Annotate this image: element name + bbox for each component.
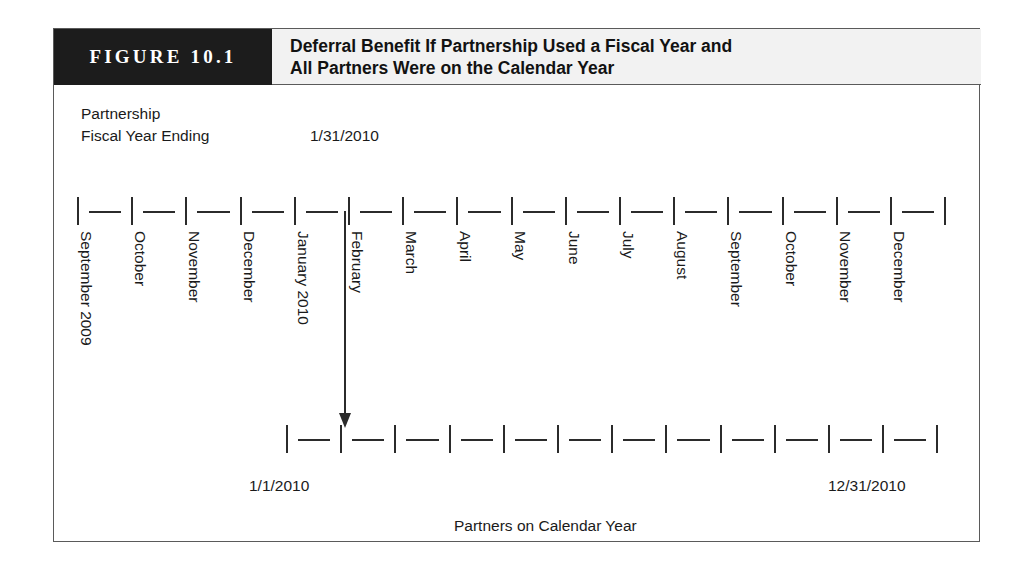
segment-dash bbox=[569, 439, 601, 441]
tick-mark bbox=[774, 425, 776, 453]
segment-dash bbox=[406, 439, 438, 441]
tick-mark bbox=[828, 425, 830, 453]
month-label: September bbox=[727, 231, 745, 307]
segment-dash bbox=[143, 211, 175, 213]
tick-mark bbox=[890, 197, 892, 225]
tick-mark bbox=[240, 197, 242, 225]
caption-fiscal-year-ending: Fiscal Year Ending bbox=[81, 127, 209, 145]
figure-title-box: Deferral Benefit If Partnership Used a F… bbox=[272, 29, 981, 85]
segment-dash bbox=[794, 211, 826, 213]
tick-mark bbox=[782, 197, 784, 225]
segment-dash bbox=[352, 439, 384, 441]
tick-mark bbox=[394, 425, 396, 453]
figure-header: FIGURE 10.1 Deferral Benefit If Partners… bbox=[54, 29, 981, 85]
caption-partners-on-calendar-year: Partners on Calendar Year bbox=[454, 517, 637, 535]
caption-partnership: Partnership bbox=[81, 105, 160, 123]
month-label: December bbox=[240, 231, 258, 303]
month-label: September 2009 bbox=[77, 231, 95, 346]
tick-mark bbox=[185, 197, 187, 225]
label-calendar-end-date: 12/31/2010 bbox=[828, 477, 906, 495]
month-label: July bbox=[619, 231, 637, 259]
segment-dash bbox=[685, 211, 717, 213]
segment-dash bbox=[623, 439, 655, 441]
tick-mark bbox=[402, 197, 404, 225]
tick-mark bbox=[720, 425, 722, 453]
segment-dash bbox=[523, 211, 555, 213]
segment-dash bbox=[515, 439, 547, 441]
tick-mark bbox=[77, 197, 79, 225]
month-label: November bbox=[185, 231, 203, 303]
tick-mark bbox=[294, 197, 296, 225]
segment-dash bbox=[739, 211, 771, 213]
figure-number-box: FIGURE 10.1 bbox=[54, 29, 272, 85]
segment-dash bbox=[902, 211, 934, 213]
segment-dash bbox=[468, 211, 500, 213]
segment-dash bbox=[848, 211, 880, 213]
segment-dash bbox=[298, 439, 330, 441]
month-label: June bbox=[565, 231, 583, 265]
tick-mark bbox=[565, 197, 567, 225]
tick-mark bbox=[131, 197, 133, 225]
tick-mark bbox=[936, 425, 938, 453]
label-fiscal-year-end-date: 1/31/2010 bbox=[310, 127, 379, 145]
segment-dash bbox=[360, 211, 392, 213]
segment-dash bbox=[461, 439, 493, 441]
segment-dash bbox=[786, 439, 818, 441]
timeline-partners-calendar-year bbox=[286, 425, 942, 459]
segment-dash bbox=[677, 439, 709, 441]
tick-mark bbox=[503, 425, 505, 453]
tick-mark bbox=[944, 197, 946, 225]
month-label: November bbox=[836, 231, 854, 303]
month-label: April bbox=[456, 231, 474, 262]
segment-dash bbox=[89, 211, 121, 213]
segment-dash bbox=[197, 211, 229, 213]
month-label: October bbox=[131, 231, 149, 286]
figure-body: Partnership Fiscal Year Ending 1/31/2010… bbox=[54, 85, 981, 541]
tick-mark bbox=[836, 197, 838, 225]
deferral-arrow bbox=[338, 211, 352, 433]
segment-dash bbox=[732, 439, 764, 441]
segment-dash bbox=[414, 211, 446, 213]
segment-dash bbox=[894, 439, 926, 441]
month-label: August bbox=[673, 231, 691, 279]
arrow-shaft bbox=[344, 211, 346, 417]
month-label: December bbox=[890, 231, 908, 303]
month-label: October bbox=[782, 231, 800, 286]
segment-dash bbox=[252, 211, 284, 213]
tick-mark bbox=[727, 197, 729, 225]
segment-dash bbox=[631, 211, 663, 213]
timeline-partnership-fiscal-year: September 2009OctoberNovemberDecemberJan… bbox=[77, 197, 947, 231]
figure-title-line-1: Deferral Benefit If Partnership Used a F… bbox=[290, 35, 981, 57]
tick-mark bbox=[456, 197, 458, 225]
tick-mark bbox=[673, 197, 675, 225]
segment-dash bbox=[306, 211, 338, 213]
tick-mark bbox=[286, 425, 288, 453]
figure-frame: FIGURE 10.1 Deferral Benefit If Partners… bbox=[53, 28, 980, 542]
tick-mark bbox=[611, 425, 613, 453]
tick-mark bbox=[340, 425, 342, 453]
tick-mark bbox=[882, 425, 884, 453]
month-label: May bbox=[511, 231, 529, 260]
tick-mark bbox=[449, 425, 451, 453]
tick-mark bbox=[665, 425, 667, 453]
month-label: January 2010 bbox=[294, 231, 312, 325]
segment-dash bbox=[840, 439, 872, 441]
label-calendar-start-date: 1/1/2010 bbox=[249, 477, 309, 495]
tick-mark bbox=[511, 197, 513, 225]
figure-title-line-2: All Partners Were on the Calendar Year bbox=[290, 57, 981, 79]
month-label: March bbox=[402, 231, 420, 274]
tick-mark bbox=[557, 425, 559, 453]
segment-dash bbox=[577, 211, 609, 213]
tick-mark bbox=[619, 197, 621, 225]
figure-number-label: FIGURE 10.1 bbox=[89, 46, 236, 68]
